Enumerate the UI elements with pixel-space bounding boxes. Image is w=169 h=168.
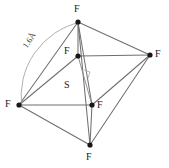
bond-f-left-f-bottom — [19, 105, 90, 145]
molecule-diagram-canvas — [0, 0, 169, 168]
atom-dot-f-right — [147, 52, 152, 57]
atom-label-f-bottom: F — [86, 152, 92, 162]
bond-f-top-f-right — [78, 22, 150, 55]
bond-f-right-f-inner-lower — [92, 55, 150, 105]
atom-dot-f-bottom — [87, 142, 92, 147]
bond-f-inner-lower-f-bottom — [90, 105, 92, 145]
atom-dot-f-left — [16, 102, 21, 107]
atom-label-f-right: F — [155, 49, 161, 59]
atom-label-f-top: F — [74, 4, 80, 14]
atom-dot-f-inner-upper — [75, 53, 80, 58]
atom-label-f-inner-upper: F — [64, 46, 70, 56]
atom-dot-f-top — [75, 19, 80, 24]
atom-dot-f-inner-lower — [89, 102, 94, 107]
atom-label-s-center: S — [64, 80, 70, 90]
atom-label-f-inner-lower: F — [97, 100, 103, 110]
atom-label-f-left: F — [5, 99, 11, 109]
bond-lines-group — [19, 22, 150, 145]
molecular-structure-figure: FFFFFFS 1.6Å — [0, 0, 169, 168]
bond-f-inner-upper-f-right — [78, 55, 150, 56]
